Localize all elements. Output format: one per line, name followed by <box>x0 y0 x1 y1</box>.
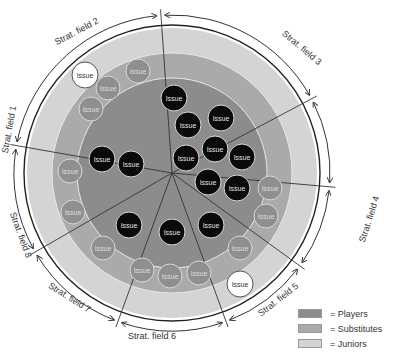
substitutes-swatch <box>298 324 322 333</box>
issue-label: Issue <box>162 273 179 280</box>
issue-label: Issue <box>207 146 224 153</box>
issue-label: Issue <box>203 222 220 229</box>
issue-label: Issue <box>123 161 140 168</box>
legend-item-juniors: = Juniors <box>298 336 382 351</box>
strat-field-8-label: Strat. field 8 <box>8 211 34 260</box>
issue-player: Issue <box>161 85 187 111</box>
issue-player: Issue <box>229 144 255 170</box>
issue-label: Issue <box>178 155 195 162</box>
issue-junior: Issue <box>72 62 98 88</box>
issue-label: Issue <box>191 270 208 277</box>
legend: = Players = Substitutes = Juniors <box>298 306 382 351</box>
players-swatch <box>298 309 322 318</box>
issue-label: Issue <box>134 267 151 274</box>
strat-field-1-label: Strat. field 1 <box>0 105 18 154</box>
legend-label-players: = Players <box>330 309 368 319</box>
issue-label: Issue <box>121 222 138 229</box>
issue-substitute: Issue <box>58 159 82 183</box>
issue-substitute: Issue <box>79 97 103 121</box>
issue-substitute: Issue <box>158 264 182 288</box>
issue-substitute: Issue <box>96 76 120 100</box>
issue-label: Issue <box>262 185 279 192</box>
issue-label: Issue <box>200 179 217 186</box>
issue-label: Issue <box>62 168 79 175</box>
issue-label: Issue <box>166 95 183 102</box>
issue-substitute: Issue <box>61 200 85 224</box>
strat-field-3-label: Strat. field 3 <box>280 28 323 67</box>
issue-substitute: Issue <box>254 204 278 228</box>
issue-label: Issue <box>229 185 246 192</box>
issue-label: Issue <box>213 115 230 122</box>
strat-field-6-label: Strat. field 6 <box>128 331 176 341</box>
issue-substitute: Issue <box>91 236 115 260</box>
strategic-field-diagram: IssueIssueIssueIssueIssueIssueIssueIssue… <box>0 0 395 358</box>
issue-label: Issue <box>65 209 82 216</box>
issue-substitute: Issue <box>130 258 154 282</box>
issue-label: Issue <box>83 106 100 113</box>
issue-label: Issue <box>164 229 181 236</box>
issue-player: Issue <box>159 219 185 245</box>
field-span-arrow <box>122 323 222 331</box>
issue-junior: Issue <box>227 271 253 297</box>
issue-label: Issue <box>232 281 249 288</box>
issue-player: Issue <box>116 212 142 238</box>
issue-player: Issue <box>175 112 201 138</box>
issue-player: Issue <box>202 136 228 162</box>
juniors-swatch <box>298 339 322 348</box>
issue-player: Issue <box>89 146 115 172</box>
issue-label: Issue <box>130 68 147 75</box>
issue-substitute: Issue <box>228 236 252 260</box>
issue-label: Issue <box>180 122 197 129</box>
issue-player: Issue <box>118 151 144 177</box>
issue-label: Issue <box>77 72 94 79</box>
legend-item-players: = Players <box>298 306 382 321</box>
issue-label: Issue <box>94 156 111 163</box>
issue-label: Issue <box>234 154 251 161</box>
legend-label-substitutes: = Substitutes <box>330 324 382 334</box>
issue-substitute: Issue <box>126 59 150 83</box>
issue-label: Issue <box>232 245 249 252</box>
strat-field-2-label: Strat. field 2 <box>53 16 100 47</box>
issue-label: Issue <box>100 85 117 92</box>
legend-label-juniors: = Juniors <box>330 339 367 349</box>
issue-player: Issue <box>198 212 224 238</box>
legend-item-substitutes: = Substitutes <box>298 321 382 336</box>
issue-substitute: Issue <box>187 261 211 285</box>
issue-label: Issue <box>95 245 112 252</box>
strat-field-4-label: Strat. field 4 <box>357 195 381 244</box>
issue-player: Issue <box>208 105 234 131</box>
issue-label: Issue <box>258 213 275 220</box>
issue-substitute: Issue <box>258 176 282 200</box>
issue-player: Issue <box>224 175 250 201</box>
issue-player: Issue <box>195 169 221 195</box>
issue-player: Issue <box>173 145 199 171</box>
